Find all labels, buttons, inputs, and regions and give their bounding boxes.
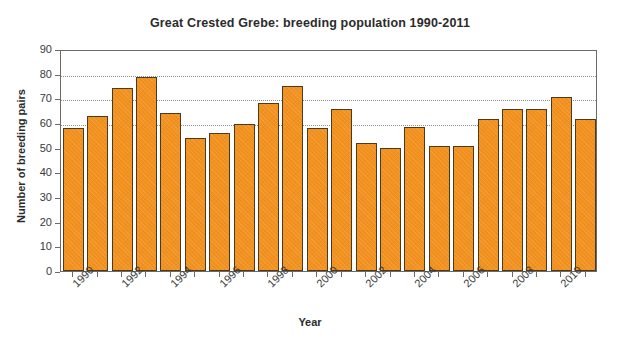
- x-tick-mark-1999: [292, 272, 293, 277]
- chart-title: Great Crested Grebe: breeding population…: [0, 16, 620, 30]
- y-tick-label-0: 0: [18, 265, 52, 277]
- x-tick-mark-2011: [585, 272, 586, 277]
- bar-1996[interactable]: [209, 133, 230, 271]
- x-tick-mark-2002: [365, 272, 366, 277]
- bar-2007[interactable]: [478, 119, 499, 271]
- x-tick-mark-1990: [72, 272, 73, 277]
- x-axis-title: Year: [0, 316, 620, 328]
- x-tick-mark-2000: [316, 272, 317, 277]
- bar-2001[interactable]: [331, 109, 352, 271]
- bar-2002[interactable]: [356, 143, 377, 271]
- x-tick-mark-2008: [512, 272, 513, 277]
- bar-1998[interactable]: [258, 103, 279, 271]
- bar-2003[interactable]: [380, 148, 401, 271]
- bar-2004[interactable]: [404, 127, 425, 271]
- bar-2008[interactable]: [502, 109, 523, 271]
- bar-2006[interactable]: [453, 146, 474, 271]
- x-tick-mark-2007: [487, 272, 488, 277]
- x-tick-mark-2006: [463, 272, 464, 277]
- bar-2009[interactable]: [526, 109, 547, 271]
- x-tick-mark-2004: [414, 272, 415, 277]
- bar-1992[interactable]: [112, 88, 133, 271]
- bar-1995[interactable]: [185, 138, 206, 271]
- x-tick-mark-1995: [194, 272, 195, 277]
- x-tick-mark-2010: [560, 272, 561, 277]
- x-tick-mark-1997: [243, 272, 244, 277]
- x-tick-mark-2005: [438, 272, 439, 277]
- x-tick-mark-2001: [341, 272, 342, 277]
- x-tick-mark-1994: [170, 272, 171, 277]
- x-tick-mark-1991: [97, 272, 98, 277]
- x-tick-mark-2009: [536, 272, 537, 277]
- x-tick-mark-1993: [145, 272, 146, 277]
- x-tick-mark-1992: [121, 272, 122, 277]
- bar-2011[interactable]: [575, 119, 596, 271]
- chart-figure: Great Crested Grebe: breeding population…: [0, 0, 620, 341]
- x-tick-mark-1996: [219, 272, 220, 277]
- bar-1993[interactable]: [136, 77, 157, 271]
- bar-2010[interactable]: [551, 97, 572, 271]
- x-tick-mark-1998: [267, 272, 268, 277]
- bar-1994[interactable]: [160, 113, 181, 271]
- bar-2000[interactable]: [307, 128, 328, 271]
- y-tick-mark-0: [55, 272, 60, 273]
- y-axis-title: Number of breeding pairs: [15, 51, 27, 261]
- bar-1999[interactable]: [282, 86, 303, 271]
- bar-1991[interactable]: [87, 116, 108, 271]
- bars-layer: [61, 51, 596, 271]
- bar-1997[interactable]: [234, 124, 255, 271]
- bar-1990[interactable]: [63, 128, 84, 271]
- bar-2005[interactable]: [429, 146, 450, 271]
- plot-area: [60, 50, 597, 272]
- x-tick-mark-2003: [390, 272, 391, 277]
